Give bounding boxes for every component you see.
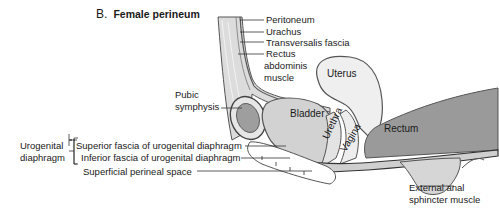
label-inferior-fascia: Inferior fascia of urogenital diaphragm — [81, 152, 240, 163]
label-pubic-line1: Pubic — [175, 89, 199, 100]
label-peritoneum: Peritoneum — [266, 14, 315, 25]
label-rectus-line2: abdominis — [264, 60, 307, 71]
label-pubic-line2: symphysis — [175, 101, 219, 112]
label-anal-line2: sphincter muscle — [409, 194, 480, 205]
label-transversalis-fascia: Transversalis fascia — [266, 37, 350, 48]
label-superior-fascia: Superior fascia of urogenital diaphragm — [76, 140, 242, 151]
organ-label-rectum: Rectum — [384, 123, 418, 134]
label-urogenital-line2: diaphragm — [20, 152, 65, 163]
organ-label-bladder: Bladder — [290, 108, 324, 119]
label-anal-line1: External anal — [409, 182, 464, 193]
label-rectus-line3: muscle — [264, 72, 294, 83]
organ-label-uterus: Uterus — [327, 68, 356, 79]
label-urogenital-line1: Urogenital — [20, 140, 63, 151]
label-superficial-perineal-space: Superficial perineal space — [83, 166, 192, 177]
label-rectus-line1: Rectus — [266, 48, 296, 59]
label-urachus: Urachus — [266, 26, 301, 37]
